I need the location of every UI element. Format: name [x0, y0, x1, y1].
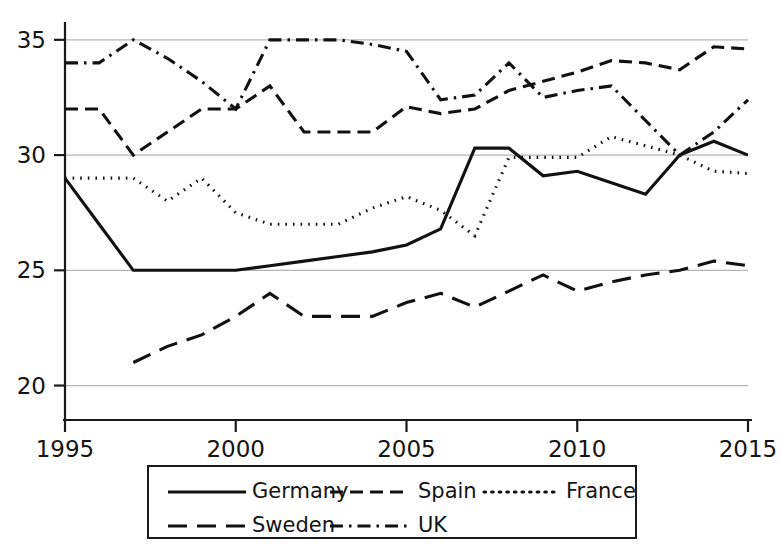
x-axis-tick-label: 1995 [36, 436, 95, 462]
data-series [65, 40, 748, 363]
axes [63, 22, 752, 420]
legend-label-uk: UK [418, 513, 448, 537]
y-axis-tick-label: 30 [17, 142, 46, 168]
series-line-spain [65, 47, 748, 155]
series-line-sweden [133, 261, 748, 362]
y-axis-ticks: 20253035 [17, 27, 65, 399]
x-axis-tick-label: 2005 [377, 436, 436, 462]
legend-label-spain: Spain [418, 479, 477, 503]
series-line-germany [65, 141, 748, 270]
legend-label-france: France [566, 479, 636, 503]
chart-canvas: 20253035 19952000200520102015 GermanySpa… [0, 0, 781, 553]
y-axis-tick-label: 35 [17, 27, 46, 53]
y-axis-tick-label: 25 [17, 257, 46, 283]
y-axis-tick-label: 20 [17, 373, 46, 399]
x-axis-tick-label: 2015 [719, 436, 778, 462]
chart-legend: GermanySpainFranceSwedenUK [148, 466, 636, 538]
legend-label-sweden: Sweden [252, 513, 335, 537]
line-chart: 20253035 19952000200520102015 GermanySpa… [0, 0, 781, 553]
x-axis-tick-label: 2010 [548, 436, 607, 462]
series-line-uk [65, 40, 748, 155]
x-axis-ticks: 19952000200520102015 [36, 420, 778, 462]
series-line-france [65, 137, 748, 236]
gridlines [65, 40, 748, 386]
x-axis-tick-label: 2000 [206, 436, 265, 462]
